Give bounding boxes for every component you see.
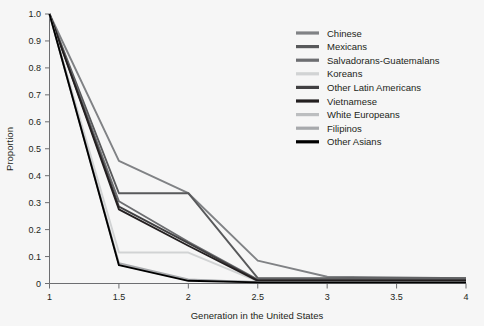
y-tick-label: 0.8 bbox=[28, 63, 41, 73]
x-tick-label: 1.5 bbox=[113, 292, 126, 302]
x-tick-label: 3 bbox=[325, 292, 330, 302]
y-tick-label: 0.9 bbox=[28, 36, 41, 46]
x-tick-label: 2 bbox=[186, 292, 191, 302]
legend-label-other-asians: Other Asians bbox=[327, 136, 382, 147]
y-tick-label: 0.1 bbox=[28, 252, 41, 262]
y-tick-label: 0.2 bbox=[28, 225, 41, 235]
legend-label-vietnamese: Vietnamese bbox=[327, 96, 377, 107]
legend-label-salvadorans-guatemalans: Salvadorans-Guatemalans bbox=[327, 55, 440, 66]
y-tick-label: 0.6 bbox=[28, 117, 41, 127]
y-tick-label: 0 bbox=[36, 279, 41, 289]
chart-container: 00.10.20.30.40.50.60.70.80.91.0 11.522.5… bbox=[0, 0, 484, 326]
y-tick-label: 0.4 bbox=[28, 171, 41, 181]
line-chart: 00.10.20.30.40.50.60.70.80.91.0 11.522.5… bbox=[0, 0, 484, 326]
legend-label-other-latin-americans: Other Latin Americans bbox=[327, 82, 421, 93]
y-tick-label: 0.7 bbox=[28, 90, 41, 100]
y-tick-label: 0.5 bbox=[28, 144, 41, 154]
legend-label-koreans: Koreans bbox=[327, 68, 363, 79]
x-axis-title: Generation in the United States bbox=[191, 310, 324, 321]
y-tick-label: 0.3 bbox=[28, 198, 41, 208]
legend-label-filipinos: Filipinos bbox=[327, 123, 362, 134]
x-tick-label: 2.5 bbox=[251, 292, 264, 302]
y-axis-title: Proportion bbox=[4, 127, 15, 171]
x-tick-label: 4 bbox=[463, 292, 468, 302]
y-tick-label: 1.0 bbox=[28, 9, 41, 19]
legend-label-chinese: Chinese bbox=[327, 28, 362, 39]
x-tick-label: 1 bbox=[47, 292, 52, 302]
legend-label-white-europeans: White Europeans bbox=[327, 109, 400, 120]
legend-label-mexicans: Mexicans bbox=[327, 41, 367, 52]
x-tick-label: 3.5 bbox=[390, 292, 403, 302]
